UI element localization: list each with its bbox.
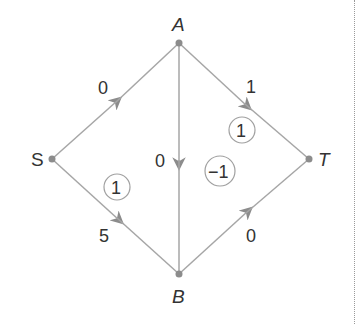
node-t <box>306 156 313 163</box>
dotted-border-right <box>354 0 355 324</box>
circled-value-text: 1 <box>236 121 246 141</box>
circled-value-text: −1 <box>208 162 229 182</box>
edge-b-t <box>179 159 309 274</box>
node-label-t: T <box>318 149 331 170</box>
node-b <box>176 271 183 278</box>
node-label-s: S <box>31 149 44 170</box>
edge-label-a-b: 0 <box>155 151 165 171</box>
node-label-b: B <box>172 286 185 307</box>
edge-label-a-t: 1 <box>246 77 256 97</box>
edge-label-s-a: 0 <box>98 78 108 98</box>
flow-network-diagram: S A B T 0 1 0 5 0 1 −1 1 <box>0 0 358 324</box>
edge-label-b-t: 0 <box>246 226 256 246</box>
circled-value-neg1: −1 <box>205 156 235 186</box>
node-s <box>49 156 56 163</box>
circled-value-1-upper: 1 <box>229 117 255 143</box>
edge-s-a <box>52 43 179 159</box>
edge-a-t <box>179 43 309 159</box>
circled-value-text: 1 <box>111 178 121 198</box>
node-a <box>176 40 183 47</box>
edge-label-s-b: 5 <box>99 226 109 246</box>
edge-s-b <box>52 159 179 274</box>
circled-value-1-lower: 1 <box>104 174 130 200</box>
node-label-a: A <box>171 14 185 35</box>
